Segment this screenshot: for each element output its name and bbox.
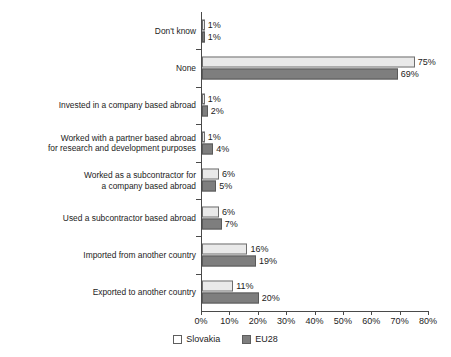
bar-group: 6%7% (202, 206, 451, 229)
bar-item: 1% (202, 31, 451, 42)
bar-chart: Don't know1%1%None75%69%Invested in a co… (0, 0, 451, 357)
bar-item: 19% (202, 255, 451, 266)
value-axis-tick (201, 311, 202, 315)
bar-value-label: 69% (401, 69, 419, 80)
bar-slovakia (202, 19, 205, 30)
bar-slovakia (202, 281, 233, 292)
value-axis-tick-label: 30% (277, 316, 295, 327)
bar-value-label: 1% (208, 19, 221, 30)
legend-label: EU28 (255, 334, 278, 344)
bar-item: 1% (202, 19, 451, 30)
bar-item: 6% (202, 206, 451, 217)
bar-slovakia (202, 94, 205, 105)
legend-swatch-icon (173, 335, 182, 344)
bar-value-label: 11% (236, 281, 253, 292)
bar-value-label: 1% (208, 94, 221, 105)
value-axis-tick (258, 311, 259, 315)
bar-value-label: 6% (222, 206, 235, 217)
bar-item: 20% (202, 293, 451, 304)
category-label: Worked as a subcontractor for a company … (0, 170, 196, 191)
bar-value-label: 1% (208, 31, 221, 42)
legend-label: Slovakia (186, 334, 220, 344)
value-axis-tick (229, 311, 230, 315)
category-label: Imported from another country (0, 250, 196, 260)
chart-category-row: Invested in a company based abroad1%2% (0, 87, 451, 124)
bar-value-label: 2% (211, 106, 224, 117)
category-tick (196, 162, 201, 163)
bar-item: 2% (202, 106, 451, 117)
bar-slovakia (202, 206, 219, 217)
bar-group: 11%20% (202, 281, 451, 304)
chart-category-row: None75%69% (0, 49, 451, 86)
bar-eu28 (202, 293, 259, 304)
bar-item: 1% (202, 94, 451, 105)
bar-eu28 (202, 31, 205, 42)
value-axis-tick (371, 311, 372, 315)
value-axis-tick (400, 311, 401, 315)
value-axis-tick-label: 20% (249, 316, 267, 327)
bar-group: 1%2% (202, 94, 451, 117)
chart-category-row: Worked with a partner based abroad for r… (0, 124, 451, 161)
bar-value-label: 75% (418, 57, 436, 68)
category-label: Worked with a partner based abroad for r… (0, 132, 196, 153)
category-tick (196, 87, 201, 88)
bar-slovakia (202, 57, 415, 68)
value-axis-tick-label: 40% (305, 316, 323, 327)
value-axis-tick-label: 50% (334, 316, 352, 327)
bar-value-label: 6% (222, 169, 235, 180)
bar-group: 16%19% (202, 243, 451, 266)
bar-group: 6%5% (202, 169, 451, 192)
bar-item: 16% (202, 243, 451, 254)
bar-item: 6% (202, 169, 451, 180)
bar-item: 1% (202, 131, 451, 142)
category-tick (196, 124, 201, 125)
bar-item: 69% (202, 69, 451, 80)
category-label: Used a subcontractor based abroad (0, 212, 196, 222)
bar-value-label: 5% (219, 181, 232, 192)
value-axis-tick-label: 60% (362, 316, 380, 327)
bar-value-label: 19% (259, 255, 277, 266)
bar-eu28 (202, 255, 256, 266)
bar-slovakia (202, 169, 219, 180)
bar-item: 7% (202, 218, 451, 229)
value-axis-tick-label: 70% (391, 316, 409, 327)
category-tick (196, 236, 201, 237)
bar-eu28 (202, 106, 208, 117)
category-tick (196, 199, 201, 200)
category-label: Invested in a company based abroad (0, 100, 196, 110)
chart-category-row: Imported from another country16%19% (0, 236, 451, 273)
bar-value-label: 1% (208, 131, 221, 142)
value-axis-tick (315, 311, 316, 315)
legend-swatch-icon (242, 335, 251, 344)
chart-category-row: Exported to another country11%20% (0, 274, 451, 311)
chart-category-row: Don't know1%1% (0, 12, 451, 49)
chart-legend: SlovakiaEU28 (0, 334, 451, 344)
bar-item: 5% (202, 181, 451, 192)
bar-item: 75% (202, 57, 451, 68)
value-axis-tick-label: 0% (194, 316, 207, 327)
plot-area: Don't know1%1%None75%69%Invested in a co… (0, 0, 451, 315)
bar-eu28 (202, 143, 213, 154)
value-axis-tick (286, 311, 287, 315)
legend-item-slovakia[interactable]: Slovakia (173, 334, 220, 344)
bar-eu28 (202, 69, 398, 80)
bar-eu28 (202, 181, 216, 192)
category-label: None (0, 63, 196, 73)
chart-category-row: Used a subcontractor based abroad6%7% (0, 199, 451, 236)
value-axis-tick-label: 80% (419, 316, 437, 327)
bar-item: 11% (202, 281, 451, 292)
value-axis-tick-label: 10% (220, 316, 238, 327)
bar-value-label: 20% (262, 293, 280, 304)
value-axis-tick (343, 311, 344, 315)
bar-slovakia (202, 131, 205, 142)
bar-group: 1%1% (202, 19, 451, 42)
bar-value-label: 4% (216, 143, 229, 154)
bar-value-label: 16% (250, 243, 268, 254)
bar-item: 4% (202, 143, 451, 154)
chart-category-row: Worked as a subcontractor for a company … (0, 162, 451, 199)
bar-slovakia (202, 243, 247, 254)
category-tick (196, 274, 201, 275)
bar-group: 1%4% (202, 131, 451, 154)
value-axis-tick (428, 311, 429, 315)
legend-item-eu28[interactable]: EU28 (242, 334, 278, 344)
